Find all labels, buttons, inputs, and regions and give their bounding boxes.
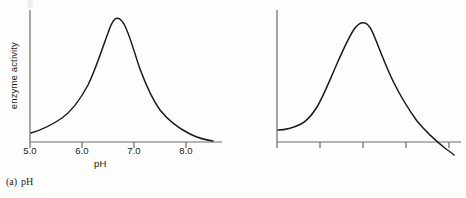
ph-tick-label-7: 7.0 — [127, 145, 141, 156]
ph-caption: (a)pH — [6, 176, 33, 187]
ph-plot-area — [0, 0, 233, 198]
ph-caption-tag: (a) — [6, 176, 17, 187]
temperature-activity-curve — [278, 23, 454, 155]
ph-x-ticks — [30, 142, 186, 148]
ph-x-axis-label: pH — [94, 158, 106, 169]
ph-tick-label-6: 6.0 — [75, 145, 89, 156]
ph-caption-text: pH — [21, 176, 33, 187]
figure-container: enzyme activity 5.0 6.0 7.0 8.0 pH (a)pH — [0, 0, 466, 198]
ph-activity-curve — [31, 18, 213, 141]
ph-y-axis-label: enzyme activity — [9, 42, 19, 109]
chart-panel-temperature: enzyme activity 0 20 40 60 80 temperatur… — [233, 0, 466, 198]
ph-tick-label-5: 5.0 — [23, 145, 37, 156]
temperature-x-ticks — [277, 142, 449, 148]
temperature-plot-area — [233, 0, 466, 198]
chart-panel-ph: enzyme activity 5.0 6.0 7.0 8.0 pH (a)pH — [0, 0, 233, 198]
ph-tick-label-8: 8.0 — [179, 145, 193, 156]
